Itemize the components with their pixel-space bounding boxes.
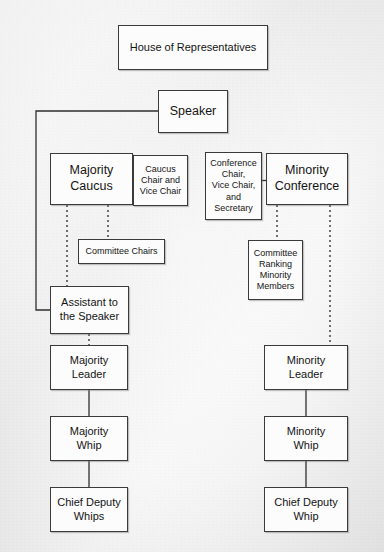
node-conference-chair-vice-chair-secretary[interactable]: Conference Chair, Vice Chair, and Secret… [205, 152, 262, 220]
node-minority-chief-deputy-whip[interactable]: Chief Deputy Whip [264, 487, 348, 532]
node-minority-conference[interactable]: Minority Conference [266, 153, 348, 205]
node-minority-whip[interactable]: Minority Whip [264, 416, 348, 461]
label-minority-conference: Minority Conference [272, 163, 343, 194]
label-caucus-chair-and-vice-chair: Caucus Chair and Vice Chair [137, 164, 184, 198]
node-committee-ranking-minority-members[interactable]: Committee Ranking Minority Members [248, 240, 303, 300]
node-caucus-chair-and-vice-chair[interactable]: Caucus Chair and Vice Chair [133, 155, 188, 206]
node-committee-chairs[interactable]: Committee Chairs [78, 239, 165, 264]
label-house-of-representatives: House of Representatives [127, 41, 260, 55]
node-majority-caucus[interactable]: Majority Caucus [50, 153, 133, 205]
node-assistant-to-the-speaker[interactable]: Assistant to the Speaker [50, 286, 129, 334]
node-majority-leader[interactable]: Majority Leader [50, 345, 128, 390]
label-committee-ranking-minority-members: Committee Ranking Minority Members [251, 248, 301, 293]
label-majority-whip: Majority Whip [67, 425, 112, 453]
connector-layer [0, 0, 384, 552]
node-majority-chief-deputy-whips[interactable]: Chief Deputy Whips [50, 487, 128, 532]
label-conference-chair-vice-chair-secretary: Conference Chair, Vice Chair, and Secret… [207, 158, 260, 214]
label-majority-leader: Majority Leader [67, 354, 112, 382]
label-minority-chief-deputy-whip: Chief Deputy Whip [271, 496, 341, 524]
label-majority-chief-deputy-whips: Chief Deputy Whips [54, 496, 124, 524]
label-majority-caucus: Majority Caucus [67, 163, 117, 194]
label-assistant-to-the-speaker: Assistant to the Speaker [57, 296, 122, 324]
paper-vignette [0, 0, 384, 552]
node-speaker[interactable]: Speaker [158, 90, 228, 133]
label-speaker: Speaker [167, 104, 220, 120]
label-minority-leader: Minority Leader [284, 354, 329, 382]
label-committee-chairs: Committee Chairs [82, 246, 160, 257]
paper-texture [0, 0, 384, 552]
label-minority-whip: Minority Whip [284, 425, 329, 453]
org-chart: House of Representatives Speaker Majorit… [0, 0, 384, 552]
node-majority-whip[interactable]: Majority Whip [50, 416, 128, 461]
node-house-of-representatives[interactable]: House of Representatives [118, 25, 268, 70]
connector-speaker-to-assistant [36, 111, 158, 310]
node-minority-leader[interactable]: Minority Leader [264, 345, 348, 390]
